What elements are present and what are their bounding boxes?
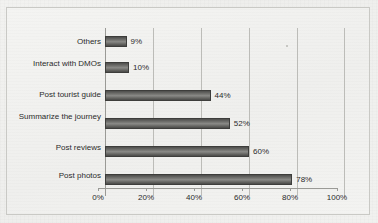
bar-post-reviews[interactable] xyxy=(105,146,249,157)
bar-value-label: 60% xyxy=(253,146,269,157)
bar-value-label: 9% xyxy=(131,36,143,47)
category-label: Post tourist guide xyxy=(13,90,101,100)
x-axis-tick xyxy=(146,188,147,191)
bar-value-label: 78% xyxy=(296,174,312,185)
scan-artifact-speck xyxy=(286,45,288,47)
bar-interact-with-dmos[interactable] xyxy=(105,62,129,73)
scanned-page: Others Interact with DMOs Post tourist g… xyxy=(0,0,378,223)
x-axis-tick-label: 100% xyxy=(317,193,357,202)
x-axis-tick-label: 80% xyxy=(270,193,310,202)
bar-value-label: 52% xyxy=(234,118,250,129)
category-label: Others xyxy=(13,37,101,47)
x-axis-line xyxy=(98,188,338,189)
bar-value-label: 44% xyxy=(215,90,231,101)
chart-frame: Others Interact with DMOs Post tourist g… xyxy=(6,7,370,215)
gridline-80 xyxy=(297,28,298,196)
x-axis-tick-label: 0% xyxy=(78,193,118,202)
category-label: Post photos xyxy=(13,171,101,181)
x-axis-tick-label: 40% xyxy=(174,193,214,202)
bar-post-tourist-guide[interactable] xyxy=(105,90,211,101)
gridline-20 xyxy=(153,28,154,196)
category-label: Interact with DMOs xyxy=(13,59,101,69)
gridline-60 xyxy=(249,28,250,196)
category-label: Summarize the journey xyxy=(13,112,101,122)
x-axis-tick xyxy=(194,188,195,191)
plot-area: 9% 10% 44% 52% 60% 78% xyxy=(105,28,345,196)
x-axis-tick xyxy=(337,188,338,191)
x-axis-tick xyxy=(242,188,243,191)
category-axis-labels: Others Interact with DMOs Post tourist g… xyxy=(11,28,101,196)
bar-others[interactable] xyxy=(105,36,127,47)
category-label: Post reviews xyxy=(13,143,101,153)
bar-value-label: 10% xyxy=(133,62,149,73)
bar-post-photos[interactable] xyxy=(105,174,292,185)
x-axis-tick xyxy=(98,188,99,191)
x-axis-tick xyxy=(290,188,291,191)
gridline-100 xyxy=(344,28,345,196)
x-axis-tick-label: 20% xyxy=(126,193,166,202)
gridline-0 xyxy=(105,28,106,196)
x-axis-tick-label: 60% xyxy=(222,193,262,202)
bar-summarize-the-journey[interactable] xyxy=(105,118,230,129)
gridline-40 xyxy=(201,28,202,196)
